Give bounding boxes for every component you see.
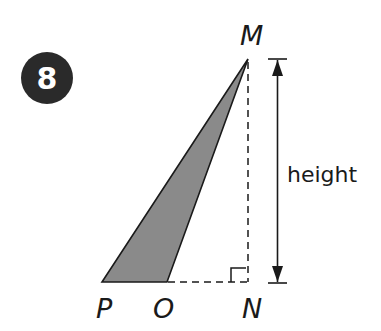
vertex-label-o: O xyxy=(153,293,174,324)
triangle-mpo xyxy=(102,59,248,282)
height-label: height xyxy=(287,162,357,187)
vertex-label-p: P xyxy=(96,293,113,324)
triangle-diagram: M P O N height xyxy=(0,0,381,331)
right-angle-marker xyxy=(231,268,246,282)
vertex-label-m: M xyxy=(240,20,263,51)
vertex-label-n: N xyxy=(242,293,262,324)
height-dimension-arrow xyxy=(268,59,287,283)
